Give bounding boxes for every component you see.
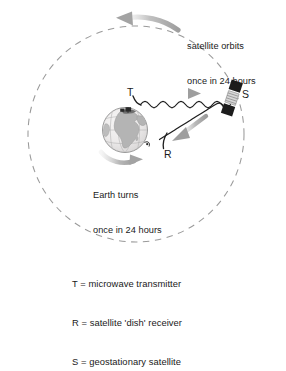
legend: T = microwave transmitter R = satellite … (72, 251, 182, 371)
label-satellite: S (242, 88, 249, 100)
transmitter-leader-line (133, 96, 141, 105)
receiver-dish (145, 142, 150, 147)
orbit-caption-line2: once in 24 hours (187, 76, 256, 88)
orbit-direction-arrow (116, 12, 178, 31)
legend-row-transmitter: T = microwave transmitter (72, 277, 182, 290)
legend-row-satellite: S = geostationary satellite (72, 355, 182, 368)
orbit-caption-line1: satellite orbits (187, 41, 256, 53)
earth-globe (103, 107, 150, 152)
label-receiver: R (164, 148, 172, 160)
earth-caption-line2: once in 24 hours (93, 225, 162, 237)
earth-rotation-caption: Earth turns once in 24 hours (93, 167, 162, 259)
earth-caption-line1: Earth turns (93, 190, 162, 202)
label-transmitter: T (127, 86, 133, 98)
legend-row-receiver: R = satellite 'dish' receiver (72, 316, 182, 329)
earth-rotation-arrow (101, 152, 143, 165)
